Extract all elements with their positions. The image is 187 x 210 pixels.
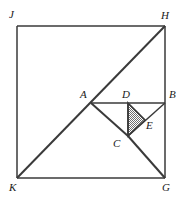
vertex-label-C: C <box>113 138 120 149</box>
vertex-label-A: A <box>80 89 87 100</box>
vertex-label-J: J <box>9 9 14 20</box>
vertex-label-G: G <box>162 182 170 193</box>
geometry-canvas <box>0 0 187 210</box>
shaded-triangle-DEC <box>128 103 145 136</box>
vertex-label-D: D <box>122 89 130 100</box>
segment-AC <box>91 103 128 136</box>
segment-diagonal-KH <box>17 26 165 178</box>
geometry-figure: J H A D B E C K G <box>0 0 187 210</box>
vertex-label-B: B <box>169 89 176 100</box>
vertex-label-H: H <box>161 10 169 21</box>
vertex-label-E: E <box>146 120 153 131</box>
vertex-label-K: K <box>9 182 16 193</box>
segment-CG <box>128 136 165 178</box>
